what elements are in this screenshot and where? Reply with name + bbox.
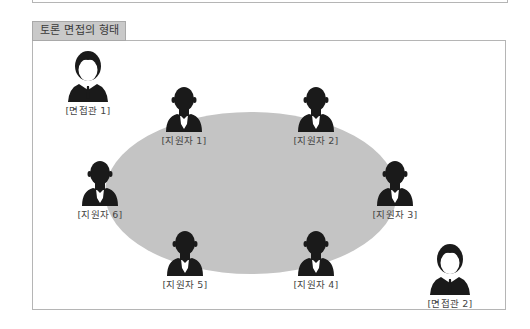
applicant-6: [지원자 6] — [60, 160, 140, 221]
interviewer-label: [면접관 2] — [410, 296, 490, 310]
interviewer-icon — [429, 243, 471, 295]
interviewer-icon — [67, 50, 109, 102]
applicant-4: [지원자 4] — [276, 230, 356, 291]
applicant-icon — [166, 230, 204, 276]
interviewer-2: [면접관 2] — [410, 243, 490, 310]
applicant-5: [지원자 5] — [145, 230, 225, 291]
applicant-label: [지원자 3] — [355, 207, 435, 221]
applicant-icon — [297, 86, 335, 132]
diagram-title: 토론 면접의 형태 — [32, 21, 126, 41]
applicant-3: [지원자 3] — [355, 160, 435, 221]
applicant-label: [지원자 1] — [144, 133, 224, 147]
applicant-label: [지원자 2] — [276, 133, 356, 147]
applicant-icon — [376, 160, 414, 206]
interviewer-1: [면접관 1] — [48, 50, 128, 117]
applicant-2: [지원자 2] — [276, 86, 356, 147]
applicant-label: [지원자 6] — [60, 207, 140, 221]
applicant-label: [지원자 4] — [276, 277, 356, 291]
applicant-icon — [165, 86, 203, 132]
applicant-label: [지원자 5] — [145, 277, 225, 291]
title-divider — [126, 40, 506, 41]
applicant-1: [지원자 1] — [144, 86, 224, 147]
applicant-icon — [297, 230, 335, 276]
applicant-icon — [81, 160, 119, 206]
previous-section-box — [32, 0, 508, 3]
interviewer-label: [면접관 1] — [48, 103, 128, 117]
